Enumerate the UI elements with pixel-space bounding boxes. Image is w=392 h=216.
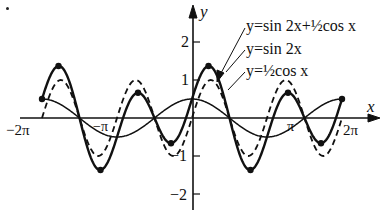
y-tick-label-2: 2	[181, 34, 189, 50]
y-tick-label-1: 1	[181, 72, 189, 88]
axes	[20, 5, 380, 210]
data-point	[135, 90, 141, 96]
legend-sum-label: y=sin 2x+½cos x	[246, 18, 356, 34]
data-point	[247, 167, 253, 173]
x-tick-label-2pi: 2π	[343, 123, 358, 138]
x-tick-label-neg-pi: −π	[93, 120, 108, 134]
y-axis-label: y	[200, 3, 208, 20]
data-point	[97, 167, 103, 173]
legend-leaders	[217, 28, 245, 90]
legend-cos-label: y=½cos x	[246, 63, 308, 79]
x-tick-label-neg-2pi: −2π	[6, 123, 30, 138]
data-point	[318, 140, 324, 146]
data-point	[55, 63, 61, 69]
corner-dot	[6, 7, 9, 10]
neg-2pi-text: −2π	[6, 122, 30, 138]
x-axis-label: x	[367, 98, 375, 115]
leader-arrow-icon	[217, 70, 224, 82]
data-point	[205, 63, 211, 69]
data-point	[168, 140, 174, 146]
y-axis-arrow-icon	[189, 5, 197, 18]
x-tick-label-pi: π	[287, 120, 294, 134]
legend-sin-label: y=sin 2x	[246, 41, 302, 57]
data-point	[39, 96, 45, 102]
y-tick-label-m2: −2	[170, 187, 187, 203]
y-tick-label-m1: −1	[170, 148, 187, 164]
data-point	[339, 96, 345, 102]
data-point	[285, 90, 291, 96]
